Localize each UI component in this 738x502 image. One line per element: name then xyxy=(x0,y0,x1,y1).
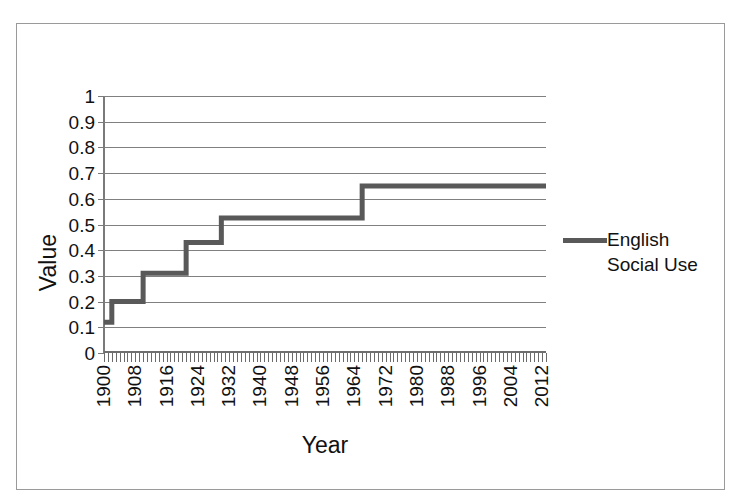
x-axis-minor-tick xyxy=(284,353,285,362)
x-axis-minor-tick xyxy=(190,353,191,362)
x-axis-minor-tick xyxy=(421,353,422,362)
x-axis-minor-tick xyxy=(401,353,402,362)
x-axis-minor-tick xyxy=(296,353,297,362)
x-axis-minor-tick xyxy=(288,353,289,362)
x-axis-minor-tick xyxy=(276,353,277,362)
x-axis-minor-tick xyxy=(120,353,121,362)
y-axis-tick-label: 0.2 xyxy=(69,292,95,311)
x-axis-minor-tick xyxy=(358,353,359,362)
x-axis-minor-tick xyxy=(229,353,230,362)
x-axis-minor-tick xyxy=(448,353,449,362)
x-axis-minor-tick xyxy=(217,353,218,362)
y-axis-tick-label: 1 xyxy=(84,87,95,106)
x-axis-minor-tick xyxy=(241,353,242,362)
x-axis-minor-tick xyxy=(182,353,183,362)
x-axis-minor-tick xyxy=(327,353,328,362)
x-axis-minor-tick xyxy=(491,353,492,362)
x-axis-minor-tick xyxy=(456,353,457,362)
x-axis-minor-tick xyxy=(116,353,117,362)
x-axis-minor-tick xyxy=(170,353,171,362)
legend-label: English Social Use xyxy=(607,227,699,277)
x-axis-minor-tick xyxy=(311,353,312,362)
x-axis-minor-tick xyxy=(347,353,348,362)
series-line-english-social-use xyxy=(104,186,546,322)
x-axis-minor-tick xyxy=(468,353,469,362)
x-axis-minor-tick xyxy=(409,353,410,362)
x-axis-minor-tick xyxy=(429,353,430,362)
x-axis-minor-tick xyxy=(507,353,508,362)
x-axis-tick-label: 1924 xyxy=(188,365,207,407)
x-axis-minor-tick xyxy=(210,353,211,362)
x-axis-minor-tick xyxy=(315,353,316,362)
x-axis-title: Year xyxy=(104,432,546,459)
x-axis-minor-tick xyxy=(417,353,418,362)
x-axis-minor-tick xyxy=(362,353,363,362)
x-axis-minor-tick xyxy=(354,353,355,362)
x-axis-minor-tick xyxy=(460,353,461,362)
x-axis-minor-tick xyxy=(174,353,175,362)
x-axis-minor-tick xyxy=(335,353,336,362)
y-axis-tick-label: 0.9 xyxy=(69,112,95,131)
y-axis-tick-label: 0.5 xyxy=(69,215,95,234)
x-axis-minor-tick xyxy=(300,353,301,362)
chart-legend: English Social Use xyxy=(563,227,699,277)
x-axis-minor-tick xyxy=(464,353,465,362)
y-axis-tick-label: 0.7 xyxy=(69,164,95,183)
legend-swatch-icon xyxy=(563,238,607,243)
x-axis-minor-tick xyxy=(260,353,261,362)
x-axis-minor-tick xyxy=(386,353,387,362)
x-axis-minor-tick xyxy=(480,353,481,362)
y-axis-tick-label: 0.3 xyxy=(69,266,95,285)
x-axis-minor-tick xyxy=(253,353,254,362)
x-axis-minor-tick xyxy=(339,353,340,362)
x-axis-minor-tick xyxy=(530,353,531,362)
x-axis-minor-tick xyxy=(124,353,125,362)
x-axis-tick-label: 1940 xyxy=(250,365,269,407)
x-axis-tick-label: 1916 xyxy=(157,365,176,407)
x-axis-tick-label: 1988 xyxy=(438,365,457,407)
x-axis-minor-tick xyxy=(264,353,265,362)
x-axis-tick-label: 1972 xyxy=(376,365,395,407)
x-axis-minor-tick xyxy=(382,353,383,362)
x-axis-minor-tick xyxy=(483,353,484,362)
x-axis-minor-tick xyxy=(249,353,250,362)
x-axis-minor-tick xyxy=(393,353,394,362)
x-axis-minor-tick xyxy=(147,353,148,362)
x-axis-minor-tick xyxy=(366,353,367,362)
y-axis-tick-label: 0.8 xyxy=(69,138,95,157)
x-axis-minor-tick xyxy=(307,353,308,362)
x-axis-minor-tick xyxy=(143,353,144,362)
x-axis-minor-tick xyxy=(202,353,203,362)
x-axis-minor-tick xyxy=(186,353,187,362)
x-axis-minor-tick xyxy=(425,353,426,362)
x-axis-minor-tick xyxy=(225,353,226,362)
x-axis-minor-tick xyxy=(206,353,207,362)
x-axis-minor-tick xyxy=(221,353,222,362)
series-plot xyxy=(104,96,546,353)
x-axis-minor-tick xyxy=(303,353,304,362)
x-axis-minor-tick xyxy=(546,353,547,362)
x-axis-minor-tick xyxy=(350,353,351,362)
x-axis-minor-tick xyxy=(214,353,215,362)
y-axis-tick-label: 0.4 xyxy=(69,241,95,260)
x-axis-minor-tick xyxy=(370,353,371,362)
x-axis-minor-tick xyxy=(523,353,524,362)
x-axis-minor-tick xyxy=(280,353,281,362)
x-axis-minor-tick xyxy=(495,353,496,362)
y-axis-tick-label: 0 xyxy=(84,344,95,363)
x-axis-minor-tick xyxy=(233,353,234,362)
x-axis-tick-label: 1908 xyxy=(125,365,144,407)
x-axis-minor-tick xyxy=(135,353,136,362)
x-axis-minor-tick xyxy=(534,353,535,362)
x-axis-minor-tick xyxy=(257,353,258,362)
x-axis-minor-tick xyxy=(378,353,379,362)
x-axis-minor-tick xyxy=(499,353,500,362)
x-axis-minor-tick xyxy=(397,353,398,362)
x-axis-minor-tick xyxy=(343,353,344,362)
x-axis-minor-tick xyxy=(237,353,238,362)
x-axis-minor-tick xyxy=(151,353,152,362)
x-axis-minor-tick xyxy=(112,353,113,362)
x-axis-minor-tick xyxy=(245,353,246,362)
x-axis-minor-tick xyxy=(444,353,445,362)
x-axis-minor-tick xyxy=(374,353,375,362)
